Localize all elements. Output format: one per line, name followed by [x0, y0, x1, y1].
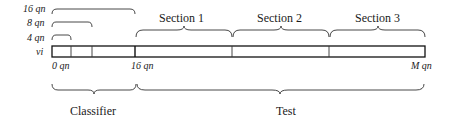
sequence-bar [52, 46, 425, 57]
test-label: Test [276, 104, 296, 119]
brace-test [137, 84, 424, 94]
axis-label-start: 0 qn [52, 60, 70, 71]
label-4qn: 4 qn [27, 32, 45, 43]
bracket-4qn [52, 35, 71, 40]
axis-label-mid: 16 qn [131, 60, 154, 71]
brace-section-3 [330, 26, 425, 37]
bracket-16qn [52, 9, 135, 14]
section-3-label: Section 3 [355, 11, 400, 26]
brace-classifier [52, 84, 136, 94]
section-2-label: Section 2 [257, 11, 302, 26]
bracket-8qn [52, 22, 92, 27]
label-16qn: 16 qn [23, 3, 46, 14]
label-8qn: 8 qn [27, 17, 45, 28]
axis-label-end: M qn [411, 60, 432, 71]
label-vi: vi [36, 46, 43, 57]
brace-section-2 [233, 26, 329, 37]
section-1-label: Section 1 [159, 11, 204, 26]
brace-section-1 [136, 26, 232, 37]
classifier-label: Classifier [70, 104, 116, 119]
